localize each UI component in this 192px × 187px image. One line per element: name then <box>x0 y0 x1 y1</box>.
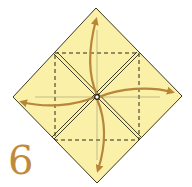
step-number: 6 <box>8 140 33 180</box>
center-dot <box>95 95 100 100</box>
origami-step-diagram: 6 <box>0 0 192 187</box>
